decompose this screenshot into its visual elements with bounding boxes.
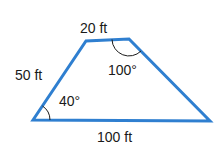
angle-label-top-right: 100° (108, 62, 137, 78)
side-label-bottom: 100 ft (97, 129, 132, 145)
angle-arc-bottom-left (43, 106, 51, 120)
side-label-top: 20 ft (80, 20, 107, 36)
angle-label-bottom-left: 40° (59, 93, 80, 109)
trapezoid-diagram: 20 ft 50 ft 100 ft 40° 100° (0, 0, 220, 152)
side-label-left: 50 ft (15, 67, 42, 83)
